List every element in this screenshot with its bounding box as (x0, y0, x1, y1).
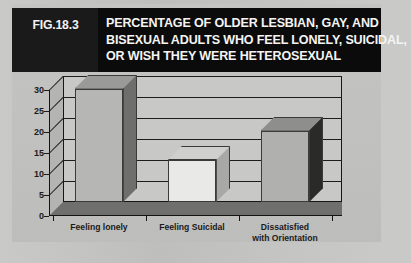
y-tick-mark (44, 174, 49, 175)
y-tick-label: 25 (22, 107, 44, 116)
bar-front-face (261, 131, 309, 202)
x-tick-mark (239, 215, 240, 221)
x-axis-category-labels: Feeling lonelyFeeling SuicidalDissatisfi… (49, 222, 342, 254)
figure-title-line-1: PERCENTAGE OF OLDER LESBIAN, GAY, AND (106, 15, 407, 32)
x-tick-mark (53, 215, 54, 221)
y-axis-tick-labels: 051015202530 (20, 76, 44, 216)
y-tick-label: 0 (22, 212, 44, 221)
y-tick-label: 5 (22, 191, 44, 200)
y-tick-label: 15 (22, 149, 44, 158)
bar-column (261, 131, 309, 202)
y-tick-mark (44, 132, 49, 133)
figure-title-line-2: BISEXUAL ADULTS WHO FEEL LONELY, SUICIDA… (106, 32, 407, 49)
y-tick-label: 10 (22, 170, 44, 179)
y-tick-label: 20 (22, 128, 44, 137)
figure-title-line-3: OR WISH THEY WERE HETEROSEXUAL (106, 48, 407, 65)
y-tick-mark (44, 153, 49, 154)
figure-title-text: PERCENTAGE OF OLDER LESBIAN, GAY, AND BI… (98, 8, 411, 65)
figure-panel: FIG.18.3 PERCENTAGE OF OLDER LESBIAN, GA… (12, 4, 381, 242)
bar-chart: 051015202530 Feeling lonelyFeeling Suici… (12, 76, 381, 242)
plot-floor (49, 202, 342, 216)
x-axis-line (49, 215, 342, 216)
plot-area (49, 76, 342, 216)
bar-side-face (309, 117, 323, 202)
x-category-label-line: Dissatisfied (227, 222, 342, 233)
x-category-label-line: with Orientation (227, 233, 342, 244)
y-tick-mark (44, 111, 49, 112)
bar-column (168, 160, 216, 202)
y-tick-mark (44, 216, 49, 217)
bar-side-face (123, 75, 137, 202)
x-tick-mark (332, 215, 333, 221)
bar-column (75, 89, 123, 202)
figure-title-banner: FIG.18.3 PERCENTAGE OF OLDER LESBIAN, GA… (12, 8, 381, 72)
figure-number: FIG.18.3 (32, 17, 78, 32)
bar-front-face (168, 160, 216, 202)
y-tick-mark (44, 90, 49, 91)
y-tick-label: 30 (22, 86, 44, 95)
y-tick-mark (44, 195, 49, 196)
x-tick-mark (146, 215, 147, 221)
figure-number-box: FIG.18.3 (12, 8, 98, 72)
y-axis-line (49, 90, 50, 216)
x-category-label: Dissatisfiedwith Orientation (227, 222, 342, 244)
bar-front-face (75, 89, 123, 202)
